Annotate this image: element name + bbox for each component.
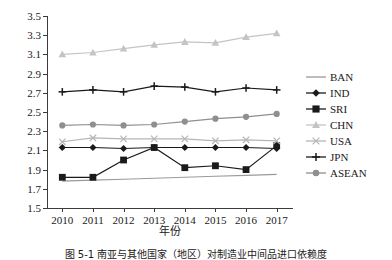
x-axis-line — [47, 208, 293, 209]
figure-caption: 图 5-1 南亚与其他国家（地区）对制造业中间品进口依赖度 — [0, 249, 392, 260]
y-tick-label: 2.3 — [27, 126, 41, 137]
data-point-circle — [59, 122, 65, 128]
legend-item-asean[interactable]: ASEAN — [305, 165, 391, 181]
legend-label: SRI — [330, 103, 347, 115]
x-tick-label: 2017 — [266, 215, 288, 226]
series-lines — [47, 16, 292, 208]
legend-swatch-sri-icon — [305, 102, 327, 116]
legend-label: IND — [330, 87, 350, 99]
data-point-plus — [312, 153, 320, 161]
legend-swatch-jpn-icon — [305, 150, 327, 164]
x-tick-mark — [277, 208, 278, 212]
data-point-square — [120, 157, 127, 164]
data-point-circle — [212, 116, 218, 122]
x-tick-mark — [185, 208, 186, 212]
data-point-square — [151, 144, 158, 151]
plot-area: 1.51.71.92.12.32.52.72.93.13.33.5 201020… — [47, 16, 292, 208]
y-tick-label: 3.3 — [27, 30, 41, 41]
data-point-diamond — [312, 89, 320, 97]
figure-container: 1.51.71.92.12.32.52.72.93.13.33.5 201020… — [0, 0, 392, 260]
data-point-circle — [313, 170, 320, 177]
data-point-diamond — [181, 144, 188, 151]
y-tick-label: 2.7 — [27, 87, 41, 98]
legend-item-ind[interactable]: IND — [305, 85, 391, 101]
data-point-circle — [243, 114, 249, 120]
data-point-circle — [274, 111, 280, 117]
data-point-square — [90, 174, 97, 181]
data-point-square — [181, 164, 188, 171]
y-tick-label: 2.9 — [27, 68, 41, 79]
x-tick-mark — [246, 208, 247, 212]
legend-label: USA — [330, 135, 352, 147]
data-point-square — [312, 105, 319, 112]
y-tick-label: 3.5 — [27, 11, 41, 22]
series-line — [62, 86, 276, 92]
data-point-diamond — [89, 144, 96, 151]
x-tick-mark — [215, 208, 216, 212]
x-tick-label: 2016 — [235, 215, 257, 226]
data-point-plus — [181, 83, 189, 91]
y-tick-label: 1.9 — [27, 164, 41, 175]
data-point-circle — [90, 121, 96, 127]
x-tick-mark — [154, 208, 155, 212]
x-axis-label: 年份 — [47, 226, 293, 238]
legend-item-chn[interactable]: CHN — [305, 117, 391, 133]
x-tick-label: 2015 — [204, 215, 226, 226]
x-tick-mark — [124, 208, 125, 212]
legend-swatch-ban-icon — [305, 70, 327, 84]
data-point-square — [212, 162, 219, 169]
legend-label: BAN — [330, 71, 353, 83]
y-tick-label: 2.1 — [27, 145, 41, 156]
data-point-circle — [151, 121, 157, 127]
x-tick-mark — [93, 208, 94, 212]
data-point-triangle — [273, 29, 281, 36]
legend-swatch-ind-icon — [305, 86, 327, 100]
data-point-plus — [150, 82, 158, 90]
chart-legend: BANINDSRICHNUSAJPNASEAN — [305, 69, 391, 181]
legend-swatch-usa-icon — [305, 134, 327, 148]
data-point-plus — [242, 84, 250, 92]
legend-label: ASEAN — [330, 167, 367, 179]
x-tick-label: 2012 — [113, 215, 135, 226]
series-chn — [59, 29, 281, 57]
series-ind — [59, 144, 281, 152]
data-point-diamond — [120, 145, 127, 152]
y-tick-label: 3.1 — [27, 49, 41, 60]
legend-item-usa[interactable]: USA — [305, 133, 391, 149]
x-tick-label: 2010 — [51, 215, 73, 226]
data-point-circle — [182, 119, 188, 125]
series-asean — [59, 111, 280, 129]
data-point-circle — [120, 122, 126, 128]
data-point-plus — [120, 88, 128, 96]
data-point-plus — [273, 86, 281, 94]
data-point-plus — [59, 88, 67, 96]
y-tick-label: 2.5 — [27, 107, 41, 118]
data-point-plus — [212, 88, 220, 96]
legend-label: JPN — [330, 151, 348, 163]
y-tick-mark — [43, 208, 47, 209]
series-jpn — [59, 82, 281, 95]
data-point-square — [243, 166, 250, 173]
legend-item-sri[interactable]: SRI — [305, 101, 391, 117]
data-point-plus — [89, 86, 97, 94]
data-point-diamond — [242, 144, 249, 151]
x-tick-label: 2011 — [82, 215, 104, 226]
legend-label: CHN — [330, 119, 353, 131]
x-tick-mark — [62, 208, 63, 212]
legend-swatch-chn-icon — [305, 118, 327, 132]
series-usa — [59, 135, 280, 145]
legend-item-jpn[interactable]: JPN — [305, 149, 391, 165]
legend-swatch-asean-icon — [305, 166, 327, 180]
y-tick-label: 1.5 — [27, 203, 41, 214]
legend-item-ban[interactable]: BAN — [305, 69, 391, 85]
data-point-square — [59, 174, 66, 181]
data-point-diamond — [212, 144, 219, 151]
y-tick-label: 1.7 — [27, 183, 41, 194]
